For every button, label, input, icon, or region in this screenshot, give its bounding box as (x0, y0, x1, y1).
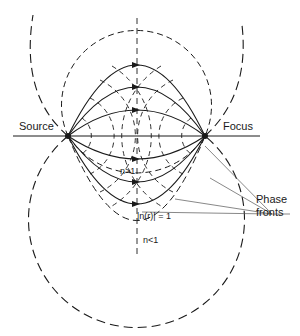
diagram-canvas (0, 0, 300, 336)
ray-upper-3 (68, 110, 205, 136)
ray-lower-1 (68, 136, 205, 159)
focus-point (202, 133, 208, 139)
source-point (65, 133, 71, 139)
n-equal-label: |n(r)| = 1 (137, 212, 171, 221)
n-less-label: n<1 (143, 236, 158, 245)
phase-fronts-label-line2: fronts (256, 207, 284, 218)
lower-outer-circle (28, 136, 244, 327)
left-outer-arc (30, 15, 68, 136)
ray-arrowheads (132, 62, 140, 207)
lower-unit-circle (68, 136, 205, 173)
focus-label: Focus (223, 121, 253, 132)
ray-diagram: Source Focus n>1 |n(r)| = 1 n<1 Phase fr… (0, 0, 300, 336)
phase-fronts-label-line1: Phase (256, 194, 287, 205)
source-label: Source (19, 121, 54, 132)
n-greater-label: n>1 (120, 167, 135, 176)
ray-upper-2 (68, 87, 205, 136)
lower-unit-circle-outer (68, 136, 205, 221)
